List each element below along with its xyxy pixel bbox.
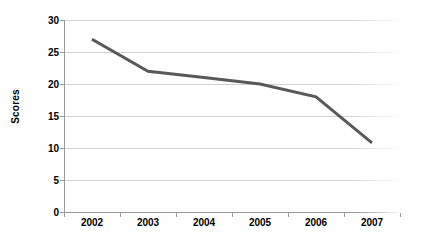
line-chart: Scores 051015202530 20022003200420052006… — [0, 0, 425, 247]
series-line-scores — [0, 0, 425, 247]
